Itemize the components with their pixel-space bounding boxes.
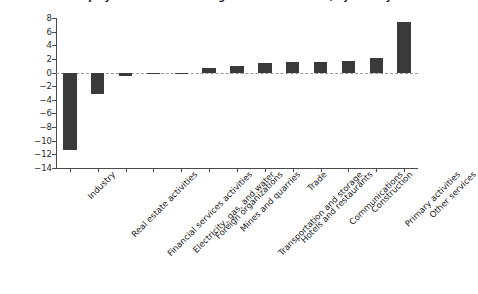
y-axis-tick	[52, 45, 56, 46]
y-axis-tick-label: −2	[39, 82, 52, 90]
bar	[119, 73, 132, 76]
y-axis-tick	[52, 100, 56, 101]
bar	[258, 63, 271, 73]
bar	[175, 73, 188, 74]
y-axis-tick	[52, 168, 56, 169]
x-axis-category-label: Industry	[86, 170, 117, 201]
y-axis-tick	[52, 127, 56, 128]
y-axis-tick-labels: 86420−2−4−6−8−10−12−14	[22, 18, 52, 168]
bar	[397, 22, 410, 72]
y-axis-tick-label: −8	[39, 123, 52, 131]
bar	[342, 61, 355, 73]
bar	[63, 73, 76, 150]
plot-area	[56, 18, 418, 168]
zero-reference-line	[56, 73, 418, 74]
bar	[286, 62, 299, 73]
bar	[202, 68, 215, 72]
x-axis-category-labels: IndustryReal estate activitiesFinancial …	[56, 170, 424, 294]
y-axis-tick	[52, 18, 56, 19]
x-axis-category-label: Trade	[306, 170, 329, 193]
y-axis-tick-label: −14	[34, 164, 52, 172]
y-axis-spine	[56, 18, 57, 168]
y-axis-tick-label: −10	[34, 137, 52, 145]
bar	[91, 73, 104, 94]
chart-title: Variation in employment numbers during t…	[8, 0, 424, 3]
y-axis-tick-label: −4	[39, 96, 52, 104]
y-axis-tick-label: −12	[34, 150, 52, 158]
y-axis-tick	[52, 141, 56, 142]
y-axis-tick	[52, 113, 56, 114]
bar	[230, 66, 243, 73]
y-axis-tick	[52, 154, 56, 155]
y-axis-tick-label: −6	[39, 109, 52, 117]
bar	[370, 58, 383, 72]
y-axis-tick	[52, 32, 56, 33]
bar	[147, 73, 160, 74]
y-axis-tick	[52, 86, 56, 87]
y-axis-tick	[52, 73, 56, 74]
y-axis-tick	[52, 59, 56, 60]
bar	[314, 62, 327, 73]
